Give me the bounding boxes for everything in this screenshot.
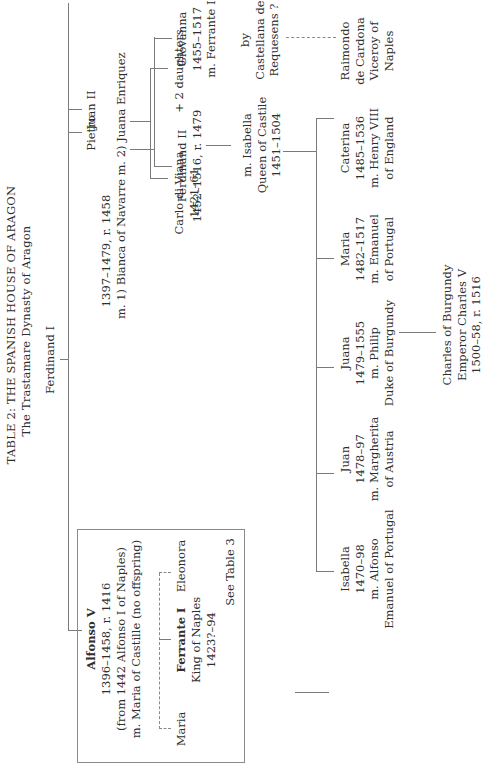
person-alfonso-v: Alfonso V [84, 608, 99, 669]
line: de Cardona [353, 17, 368, 85]
spouse-isabella-of-castile: m. Isabella Queen of Castile 1451–1504 [240, 97, 284, 194]
juan-marriage-2: m. 2) Juana Enriquez [114, 52, 129, 175]
person-juan: Juan 1478–97 m. Margherita of Austria [338, 417, 396, 502]
person-caterina: Caterina 1485–1536 m. Henry VIII of Engl… [338, 108, 396, 188]
marriage: m. Philip [367, 300, 382, 406]
name: Maria [338, 214, 353, 284]
line: Raimondo [338, 17, 353, 85]
line: Viceroy of [367, 17, 382, 85]
alfonso-dates: 1396–1458, r. 1416 [99, 583, 114, 695]
sibling-bar-isabella-children [316, 119, 317, 572]
chart-subtitle: The Trastamare Dynasty of Aragon [19, 226, 34, 437]
connector [316, 118, 334, 119]
line: m. Isabella [240, 97, 255, 194]
sibling-bar [150, 69, 151, 179]
person-isabella: Isabella 1470–98 m. Alfonso Emanuel of P… [338, 509, 396, 629]
line: by [238, 0, 253, 79]
person-ferrante-i: Ferrante I [174, 608, 189, 673]
person-eleonora: Eleonora [174, 540, 189, 593]
line: 1451–1504 [269, 97, 284, 194]
line: Naples [382, 17, 397, 85]
marriage: m. Alfonso [367, 509, 382, 629]
marriage: Emanuel of Portugal [382, 509, 397, 629]
chart-title: TABLE 2: THE SPANISH HOUSE OF ARAGON [4, 186, 19, 464]
connector [399, 332, 436, 333]
line: 1500–58, r. 1516 [469, 265, 484, 386]
connector [154, 38, 172, 39]
marriage: m. Henry VIII [367, 108, 382, 188]
connector [130, 149, 154, 150]
marriage: m. Emanuel [367, 214, 382, 284]
name: Juan II [84, 90, 99, 129]
marriage: m. Ferrante I [204, 0, 219, 77]
sibling-bar-gen2 [154, 39, 155, 167]
connector [68, 109, 82, 110]
person-juan-ii: Juan II [84, 90, 99, 129]
connector [154, 166, 172, 167]
name: Ferdinand II [175, 110, 190, 222]
juan-dates: 1397–1479, r. 1458 [99, 195, 114, 307]
connector [150, 68, 168, 69]
sibling-bar-gen1 [68, 3, 69, 631]
person-charles-v: Charles of Burgundy Emperor Charles V 15… [440, 265, 484, 386]
name: Juan [338, 417, 353, 502]
connector [60, 359, 68, 360]
connector [316, 258, 334, 259]
connector [316, 367, 334, 368]
marriage: of Portugal [382, 214, 397, 284]
alfonso-note: (from 1442 Alfonso I of Naples) [114, 547, 129, 731]
line: Castellana de [253, 0, 268, 79]
connector [316, 571, 334, 572]
line: Queen of Castile [255, 97, 270, 194]
dates: 1479–1555 [353, 300, 368, 406]
marriage: Duke of Burgundy [382, 300, 397, 406]
name: Caterina [338, 108, 353, 188]
line: Requesens ? [267, 0, 282, 79]
juan-marriage-1: m. 1) Bianca of Navarre [114, 179, 129, 319]
connector [206, 145, 231, 146]
person-giovanna: Giovanna 1455–1517 m. Ferrante I [175, 0, 219, 77]
name: Isabella [338, 509, 353, 629]
dates: 1482–1517 [353, 214, 368, 284]
connector [68, 132, 82, 133]
dates: 1455–1517 [190, 0, 205, 77]
marriage: of England [382, 108, 397, 188]
mother-castellana-de-requesens: by Castellana de Requesens ? [238, 0, 282, 79]
person-ferdinand-i: Ferdinand I [43, 326, 58, 394]
connector [159, 639, 171, 640]
connector [159, 572, 171, 573]
connector [283, 151, 317, 152]
person-maria: Maria [174, 712, 189, 747]
dates: 1452–1516, r. 1479 [190, 110, 205, 222]
stray-line [295, 692, 329, 693]
see-table-3: See Table 3 [223, 538, 238, 606]
ferrante-dates: 1423?–94 [204, 612, 219, 668]
dates: 1478–97 [353, 417, 368, 502]
illegitimate-connector [286, 37, 336, 38]
connector [130, 121, 150, 122]
line: Charles of Burgundy [440, 265, 455, 386]
illegitimate-bar [159, 573, 160, 729]
name: Juana [338, 300, 353, 406]
marriage: of Austria [382, 417, 397, 502]
marriage: m. Margherita [367, 417, 382, 502]
dates: 1470–98 [353, 509, 368, 629]
person-maria-of-portugal: Maria 1482–1517 m. Emanuel of Portugal [338, 214, 396, 284]
ferrante-title: King of Naples [189, 597, 204, 683]
dates: 1485–1536 [353, 108, 368, 188]
person-juana: Juana 1479–1555 m. Philip Duke of Burgun… [338, 300, 396, 406]
person-ferdinand-ii: Ferdinand II 1452–1516, r. 1479 [175, 110, 204, 222]
person-raimondo-de-cardona: Raimondo de Cardona Viceroy of Naples [338, 17, 396, 85]
alfonso-marriage: m. Maria of Castille (no offspring) [129, 540, 144, 738]
connector [159, 728, 171, 729]
connector [150, 178, 168, 179]
name: Giovanna [175, 0, 190, 77]
connector [316, 473, 334, 474]
line: Emperor Charles V [455, 265, 470, 386]
